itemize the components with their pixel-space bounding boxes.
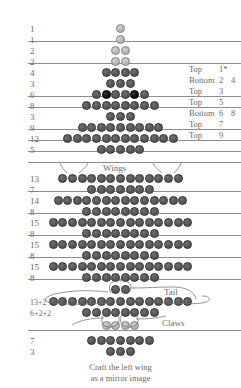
bead-dark (154, 297, 163, 306)
side-label: Top7 (189, 120, 241, 129)
row-count-label: 1 (30, 36, 35, 45)
bead-dark (102, 101, 111, 110)
bead-row (106, 79, 134, 88)
bead-dark (150, 251, 159, 260)
bead-dark (82, 273, 91, 282)
bead-dark (82, 196, 91, 205)
side-label-position: Bottom (189, 109, 219, 118)
bead-row (82, 229, 158, 238)
bead-black (130, 90, 139, 99)
bead-dark (78, 297, 87, 306)
side-label: Bottom68 (189, 109, 241, 118)
bead-dark (116, 240, 125, 249)
bead-dark (126, 174, 135, 183)
bead-dark (111, 251, 120, 260)
bead-dark (102, 207, 111, 216)
bead-dark (82, 207, 91, 216)
row-count-label: 2 (30, 47, 35, 56)
bead-light (121, 46, 130, 55)
bead-dark (106, 347, 115, 356)
bead-dark (87, 262, 96, 271)
side-label-position: Top (189, 65, 219, 74)
bead-dark (82, 229, 91, 238)
bead-dark (116, 185, 125, 194)
bead-dark (130, 101, 139, 110)
bead-dark (154, 218, 163, 227)
bead-dark (140, 273, 149, 282)
bead-dark (116, 347, 125, 356)
bead-dark (106, 218, 115, 227)
row-count-label: 2 (30, 58, 35, 67)
bead-dark (78, 123, 87, 132)
bead-dark (126, 145, 135, 154)
bead-dark (111, 134, 120, 143)
bead-dark (174, 174, 183, 183)
bead-dark (178, 196, 187, 205)
bead-dark (140, 90, 149, 99)
bead-dark (140, 308, 149, 317)
bead-row (92, 90, 149, 99)
bead-dark (126, 123, 135, 132)
bead-dark (140, 229, 149, 238)
bead-dark (140, 251, 149, 260)
bead-dark (97, 297, 106, 306)
bead-dark (106, 297, 115, 306)
bead-dark (63, 134, 72, 143)
bead-row (111, 46, 130, 55)
bead-dark (145, 185, 154, 194)
bead-dark (116, 112, 125, 121)
bead-dark (92, 101, 101, 110)
rule-line (28, 162, 241, 163)
bead-dark (126, 347, 135, 356)
bead-dark (126, 262, 135, 271)
bead-dark (135, 123, 144, 132)
bead-dark (92, 90, 101, 99)
bead-dark (87, 297, 96, 306)
bead-dark (97, 218, 106, 227)
bead-dark (169, 196, 178, 205)
bead-dark (140, 134, 149, 143)
bead-dark (116, 336, 125, 345)
bead-row (102, 68, 140, 77)
row-count-label: 6+2+2 (30, 309, 51, 318)
row-count-label: 7 (30, 186, 35, 195)
bead-dark (82, 134, 91, 143)
bead-dark (154, 262, 163, 271)
bead-dark (49, 218, 58, 227)
bead-dark (106, 174, 115, 183)
bead-dark (92, 273, 101, 282)
bead-dark (78, 240, 87, 249)
bead-dark (111, 285, 120, 294)
bead-dark (116, 79, 125, 88)
side-label: Top5 (189, 98, 241, 107)
bead-black (102, 90, 111, 99)
bead-dark (116, 145, 125, 154)
bead-dark (97, 145, 106, 154)
bead-dark (174, 218, 183, 227)
bead-dark (126, 240, 135, 249)
bead-dark (73, 134, 82, 143)
bead-dark (121, 101, 130, 110)
side-label-number-1: 2 (219, 76, 231, 85)
side-label-number-1: 1* (219, 65, 231, 74)
bead-dark (97, 262, 106, 271)
bead-dark (58, 174, 67, 183)
bead-row (82, 251, 158, 260)
bead-row (102, 321, 140, 330)
bead-dark (126, 185, 135, 194)
bead-row (63, 134, 178, 143)
bead-dark (135, 218, 144, 227)
bead-row (106, 347, 134, 356)
wing-leader-line-1 (60, 163, 67, 173)
bead-dark (174, 262, 183, 271)
bead-dark (150, 229, 159, 238)
wing-leader-line-2 (79, 163, 88, 173)
row-count-label: 8 (30, 208, 35, 217)
annotation-tail: Tail (164, 287, 178, 297)
bead-dark (145, 262, 154, 271)
bead-dark (150, 196, 159, 205)
bead-dark (111, 196, 120, 205)
bead-dark (102, 229, 111, 238)
row-count-label: 13+2 (30, 298, 47, 307)
bead-dark (183, 218, 192, 227)
